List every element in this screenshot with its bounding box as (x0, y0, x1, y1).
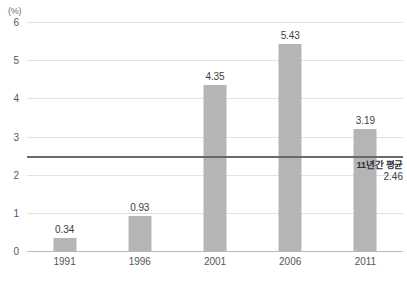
bar (204, 85, 227, 251)
bar-value-label: 5.43 (281, 30, 300, 41)
bar (53, 238, 76, 251)
average-line (27, 156, 403, 158)
x-axis-tick-label: 2011 (355, 256, 377, 267)
bar (354, 129, 377, 251)
bar-value-label: 4.35 (205, 71, 224, 82)
x-axis-tick-label: 2001 (204, 256, 226, 267)
bar-chart: (%) 01234560.340.934.355.433.19 11년간 평균 … (0, 0, 407, 284)
y-axis-tick-label: 3 (0, 131, 19, 142)
y-axis-unit-label: (%) (8, 6, 21, 16)
bar-value-label: 0.34 (55, 224, 74, 235)
average-annotation: 11년간 평균 2.46 (356, 159, 403, 183)
y-axis-tick-label: 1 (0, 207, 19, 218)
y-axis-tick-label: 6 (0, 17, 19, 28)
x-axis-tick-label: 2006 (279, 256, 301, 267)
gridline-5 (27, 60, 403, 61)
average-annotation-value: 2.46 (356, 171, 403, 184)
bar-value-label: 3.19 (356, 115, 375, 126)
bar-value-label: 0.93 (130, 202, 149, 213)
gridline-0 (27, 251, 403, 252)
bar (279, 44, 302, 251)
y-axis-tick-label: 5 (0, 55, 19, 66)
gridline-6 (27, 22, 403, 23)
bar (128, 216, 151, 251)
y-axis-tick-label: 2 (0, 169, 19, 180)
y-axis-tick-label: 4 (0, 93, 19, 104)
x-axis-tick-label: 1996 (129, 256, 151, 267)
average-annotation-label: 11년간 평균 (356, 159, 403, 171)
y-axis-tick-label: 0 (0, 246, 19, 257)
plot-area: 01234560.340.934.355.433.19 (27, 22, 403, 251)
x-axis-tick-label: 1991 (53, 256, 75, 267)
